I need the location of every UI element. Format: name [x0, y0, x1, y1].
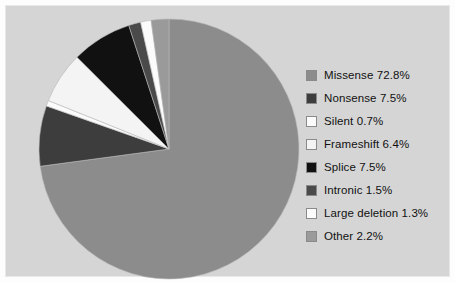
pie-chart-svg	[37, 17, 301, 281]
legend-item: Silent 0.7%	[306, 110, 455, 133]
legend-item-label: Silent 0.7%	[324, 110, 383, 133]
legend-item: Frameshift 6.4%	[306, 133, 455, 156]
legend-swatch-icon	[306, 70, 317, 81]
legend-item-label: Frameshift 6.4%	[324, 133, 409, 156]
legend-item-label: Other 2.2%	[324, 225, 383, 248]
legend-swatch-icon	[306, 93, 317, 104]
chart-frame: Missense 72.8%Nonsense 7.5%Silent 0.7%Fr…	[0, 0, 455, 282]
legend-item: Missense 72.8%	[306, 64, 455, 87]
legend-swatch-icon	[306, 208, 317, 219]
legend-item-label: Intronic 1.5%	[324, 179, 392, 202]
legend-swatch-icon	[306, 162, 317, 173]
legend-swatch-icon	[306, 185, 317, 196]
pie-chart	[37, 17, 301, 281]
legend-item-label: Nonsense 7.5%	[324, 87, 407, 110]
legend-item-label: Large deletion 1.3%	[324, 202, 428, 225]
legend-item: Nonsense 7.5%	[306, 87, 455, 110]
legend-item: Large deletion 1.3%	[306, 202, 455, 225]
legend-swatch-icon	[306, 231, 317, 242]
pie-slice-group	[39, 19, 299, 279]
chart-legend: Missense 72.8%Nonsense 7.5%Silent 0.7%Fr…	[306, 64, 455, 248]
legend-item: Intronic 1.5%	[306, 179, 455, 202]
plot-panel: Missense 72.8%Nonsense 7.5%Silent 0.7%Fr…	[5, 5, 450, 277]
legend-swatch-icon	[306, 139, 317, 150]
chart-screenshot: Missense 72.8%Nonsense 7.5%Silent 0.7%Fr…	[0, 0, 455, 282]
legend-item-label: Missense 72.8%	[324, 64, 410, 87]
legend-swatch-icon	[306, 116, 317, 127]
legend-item-label: Splice 7.5%	[324, 156, 386, 179]
legend-item: Other 2.2%	[306, 225, 455, 248]
legend-item: Splice 7.5%	[306, 156, 455, 179]
